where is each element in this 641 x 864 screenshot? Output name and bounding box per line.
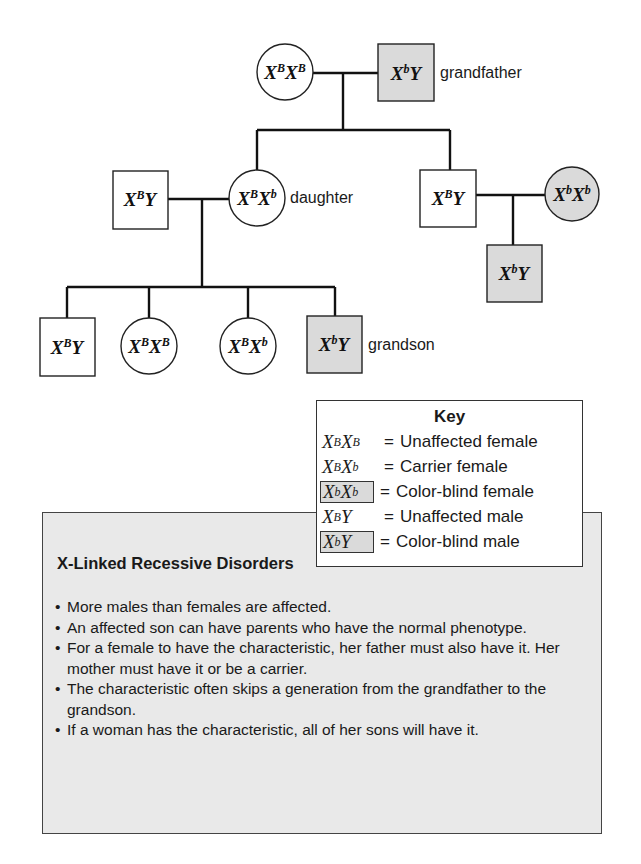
key-legend: Key XBXB = Unaffected female XBXb = Carr… — [316, 400, 583, 567]
key-row-unaffected-male: XBY = Unaffected male — [320, 504, 582, 529]
key-symbol: XBXb — [320, 456, 378, 478]
key-description: Unaffected male — [400, 507, 523, 527]
key-symbol: XBY — [320, 506, 378, 528]
equals-sign: = — [378, 432, 400, 452]
grandchild-1-symbol: XBY — [40, 318, 95, 376]
info-bullet: If a woman has the characteristic, all o… — [55, 720, 585, 741]
key-description: Carrier female — [400, 457, 508, 477]
info-bullet: An affected son can have parents who hav… — [55, 618, 585, 639]
info-bullet: The characteristic often skips a generat… — [55, 679, 585, 720]
info-bullet: More males than females are affected. — [55, 597, 585, 618]
key-row-carrier-female: XBXb = Carrier female — [320, 454, 582, 479]
key-symbol-shaded: XbXb — [320, 481, 374, 503]
key-row-colorblind-male: XbY = Color-blind male — [320, 529, 582, 554]
key-symbol-shaded: XbY — [320, 531, 374, 553]
key-row-colorblind-female: XbXb = Color-blind female — [320, 479, 582, 504]
grandfather-label: grandfather — [440, 64, 523, 81]
grandchild-2-symbol: XBXB — [121, 318, 177, 374]
info-bullet-list: More males than females are affected. An… — [55, 597, 585, 741]
grandfather-symbol: XbY — [378, 44, 434, 101]
key-row-unaffected-female: XBXB = Unaffected female — [320, 429, 582, 454]
son-symbol: XBY — [420, 170, 476, 227]
daughter-husband-symbol: XBY — [113, 171, 168, 229]
equals-sign: = — [378, 507, 400, 527]
equals-sign: = — [378, 457, 400, 477]
son-child-symbol: XbY — [487, 245, 542, 302]
key-symbol: XBXB — [320, 431, 378, 453]
key-description: Color-blind female — [396, 482, 534, 502]
pedigree-chart: XBXB XbY grandfather XBY XBXb daughter X… — [0, 0, 641, 400]
equals-sign: = — [374, 482, 396, 502]
daughter-symbol: XBXb — [229, 170, 285, 226]
daughter-label: daughter — [290, 189, 354, 206]
equals-sign: = — [374, 532, 396, 552]
grandchild-3-symbol: XBXb — [220, 318, 276, 374]
grandmother-symbol: XBXB — [257, 44, 313, 100]
grandson-label: grandson — [368, 336, 435, 353]
key-description: Color-blind male — [396, 532, 520, 552]
info-title: X-Linked Recessive Disorders — [57, 553, 297, 573]
grandson-symbol: XbY — [307, 316, 362, 373]
info-bullet: For a female to have the characteristic,… — [55, 638, 585, 679]
son-wife-symbol: XbXb — [545, 167, 599, 221]
key-title: Key — [317, 407, 582, 429]
key-description: Unaffected female — [400, 432, 538, 452]
